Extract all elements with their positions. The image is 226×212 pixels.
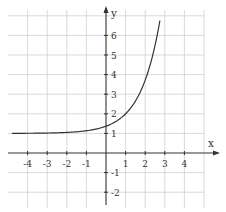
x-tick-label: -4: [23, 159, 32, 169]
x-tick-label: 4: [182, 159, 188, 169]
y-tick-label: 6: [111, 31, 117, 41]
x-tick-label: 3: [162, 159, 168, 169]
x-tick-label: -1: [82, 159, 91, 169]
y-tick-label: 1: [111, 129, 117, 139]
function-curve: [12, 21, 160, 134]
y-axis-arrow-icon: [104, 6, 109, 13]
x-tick-label: 2: [142, 159, 148, 169]
y-tick-label: -1: [111, 168, 120, 178]
x-tick-label: -3: [43, 159, 52, 169]
x-tick-label: 1: [123, 159, 129, 169]
y-tick-label: -2: [111, 188, 120, 198]
x-axis-arrow-icon: [213, 151, 220, 156]
y-tick-label: 3: [111, 90, 117, 100]
y-tick-label: 5: [111, 51, 117, 61]
function-graph: x y -4-3-2-11234-2-1123456: [0, 0, 226, 212]
y-axis-label: y: [110, 7, 117, 19]
y-tick-label: 2: [111, 109, 117, 119]
x-axis-label: x: [208, 137, 214, 149]
y-tick-label: 4: [111, 70, 117, 80]
x-tick-label: -2: [62, 159, 71, 169]
